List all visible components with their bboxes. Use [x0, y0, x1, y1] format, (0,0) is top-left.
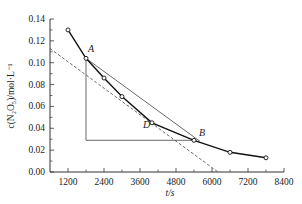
y-tick-label: 0.00: [28, 167, 45, 177]
y-axis-title: c(N₂O₅)/mol·L⁻¹: [6, 63, 17, 128]
y-tick-label: 0.04: [28, 123, 45, 133]
y-tick-label: 0.10: [28, 58, 45, 68]
x-tick-label: 3600: [131, 177, 150, 187]
guide-lines: [50, 49, 218, 172]
x-tick-label: 6000: [203, 177, 222, 187]
y-tick-label: 0.14: [28, 14, 45, 24]
y-tick-label: 0.12: [28, 36, 45, 46]
y-tick-label: 0.06: [28, 101, 45, 111]
data-point-marker: [192, 138, 196, 142]
data-point-marker: [84, 56, 88, 60]
x-tick-label: 8400: [275, 177, 294, 187]
y-tick-label: 0.08: [28, 80, 45, 90]
point-label-d: D: [142, 119, 151, 130]
data-point-marker: [228, 150, 232, 154]
x-tick-label: 1200: [59, 177, 78, 187]
series-line: [68, 30, 266, 158]
x-axis-title: t/s: [166, 188, 175, 198]
x-tick-label: 2400: [95, 177, 114, 187]
x-tick-label: 7200: [239, 177, 258, 187]
concentration-time-chart: 12002400360048006000720084000.000.020.04…: [0, 0, 302, 204]
data-point-marker: [150, 121, 154, 125]
data-point-marker: [102, 76, 106, 80]
point-label-a: A: [87, 43, 95, 54]
data-point-marker: [264, 156, 268, 160]
axes: 12002400360048006000720084000.000.020.04…: [28, 14, 293, 187]
x-tick-label: 4800: [167, 177, 186, 187]
tangent-at-D: [50, 49, 218, 172]
point-annotations: ADB: [87, 43, 205, 138]
data-point-marker: [120, 95, 124, 99]
point-label-b: B: [199, 127, 205, 138]
y-tick-label: 0.02: [28, 145, 45, 155]
data-point-marker: [66, 28, 70, 32]
